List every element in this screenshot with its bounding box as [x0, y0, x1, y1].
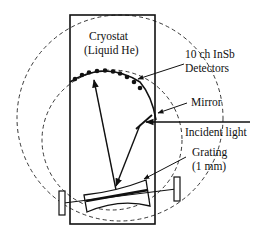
cryostat-sublabel: (Liquid He)	[84, 44, 139, 57]
detector-dot	[138, 86, 143, 91]
incident-light-label: Incident light	[185, 126, 247, 139]
detector-dot	[87, 70, 92, 75]
detector-dot	[111, 69, 116, 74]
detectors-label: 10 ch InSb	[185, 48, 235, 60]
ray-mirror-to-grating	[116, 125, 140, 186]
detector-dot	[118, 71, 123, 76]
detector-dot	[80, 73, 85, 78]
detector-dot	[132, 80, 137, 85]
grating-sublabel: (1 mm)	[192, 160, 226, 173]
detector-dot	[125, 75, 130, 80]
grating-label: Grating	[192, 146, 227, 159]
mirror-label: Mirror	[191, 96, 222, 108]
cryostat-spectrometer-diagram: Cryostat (Liquid He) 10 ch InSb Detector…	[0, 0, 264, 238]
grating-handle-left	[59, 191, 65, 215]
detector-dot	[103, 68, 108, 73]
ray-grating-to-detectors	[94, 80, 116, 190]
detectors-leader	[138, 64, 184, 79]
grating-handle-right	[174, 177, 180, 201]
detector-dot	[73, 77, 78, 82]
detectors-sublabel: Detectors	[185, 62, 230, 74]
cryostat-label: Cryostat	[89, 30, 129, 43]
grating-leader	[144, 157, 186, 179]
inner-dashed-circle	[42, 70, 182, 210]
detector-arc	[70, 71, 156, 120]
detector-dot	[95, 69, 100, 74]
